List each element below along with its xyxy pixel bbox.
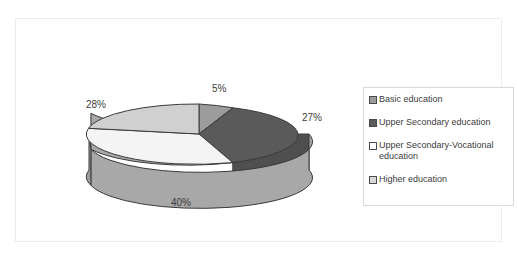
- chart-frame: 5% 27% 40% 28% Basic education Upper Sec…: [15, 18, 502, 242]
- legend-swatch-icon-higher-education: [369, 176, 377, 184]
- legend-item-upper-secondary-vocational-education: Upper Secondary-Vocational education: [369, 140, 508, 162]
- legend-label-upper-secondary-education: Upper Secondary education: [379, 117, 491, 128]
- legend-swatch-icon-basic-education: [369, 96, 377, 104]
- legend-item-upper-secondary-education: Upper Secondary education: [369, 117, 508, 128]
- data-label-upper-secondary-education: 27%: [302, 112, 322, 123]
- legend-swatch-icon-upper-secondary-vocational-education: [369, 142, 377, 150]
- legend-item-higher-education: Higher education: [369, 174, 508, 185]
- data-label-higher-education: 28%: [86, 99, 106, 110]
- chart-legend: Basic education Upper Secondary educatio…: [363, 87, 514, 206]
- pie-chart-figure: 5% 27% 40% 28% Basic education Upper Sec…: [0, 0, 517, 264]
- pie-plot-area: [44, 49, 344, 229]
- pie-svg: [44, 49, 344, 229]
- data-label-upper-secondary-vocational-education: 40%: [171, 197, 191, 208]
- legend-item-basic-education: Basic education: [369, 94, 508, 105]
- data-label-basic-education: 5%: [212, 83, 226, 94]
- legend-label-upper-secondary-vocational-education: Upper Secondary-Vocational education: [379, 140, 508, 162]
- legend-swatch-icon-upper-secondary-education: [369, 119, 377, 127]
- legend-label-higher-education: Higher education: [379, 174, 447, 185]
- legend-label-basic-education: Basic education: [379, 94, 443, 105]
